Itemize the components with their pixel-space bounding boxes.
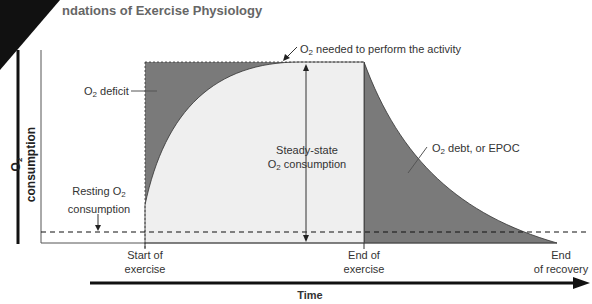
start-label: Start ofexercise: [120, 248, 170, 276]
end-exercise-label: End ofexercise: [339, 248, 389, 276]
resting-label: Resting O2consumption: [66, 184, 132, 216]
y-axis-label: O2 consumption: [9, 120, 38, 210]
steady-state-label: Steady-stateO2 consumption: [262, 143, 352, 175]
debt-label: O2 debt, or EPOC: [432, 141, 520, 159]
needed-label: O2 needed to perform the activity: [300, 42, 461, 60]
x-axis-label: Time: [290, 288, 330, 302]
end-recovery-label: Endof recovery: [530, 248, 592, 276]
deficit-label: O2 deficit: [84, 84, 129, 102]
